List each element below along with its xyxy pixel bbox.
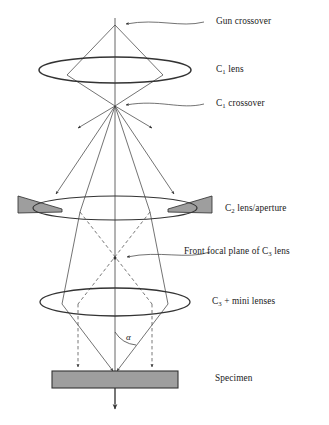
figure-canvas: Gun crossover C1 lens C1 crossover C2 le… [0,0,329,425]
front-focal-point [114,257,117,260]
label-c1-crossover: C1 crossover [216,99,265,108]
leader-gun-crossover [126,22,204,24]
label-front-focal-plane: Front focal plane of C3 lens [184,247,290,256]
label-c3-mini-lenses: C3 + mini lenses [212,297,275,306]
label-c1-lens: C1 lens [216,65,244,74]
specimen-bar [52,371,178,388]
label-c2-lens-aperture: C2 lens/aperture [225,204,287,213]
leader-c1-crossover [126,103,204,106]
label-specimen: Specimen [215,374,252,383]
label-alpha-angle: α [126,332,131,342]
label-gun-crossover: Gun crossover [216,17,271,26]
